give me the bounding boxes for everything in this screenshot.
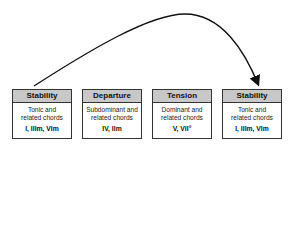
departure-box: Departure Subdominant and related chords… — [82, 89, 142, 139]
box-title: Tension — [153, 90, 211, 103]
box-title: Stability — [13, 90, 71, 103]
stability-box-start: Stability Tonic and related chords I, II… — [12, 89, 72, 139]
box-chords: I, IIIm, VIm — [13, 125, 71, 132]
box-description: Tonic and related chords — [223, 106, 281, 122]
box-description: Dominant and related chords — [153, 106, 211, 122]
box-chords: V, VII° — [153, 125, 211, 132]
box-chords: IV, IIm — [83, 125, 141, 132]
stability-box-end: Stability Tonic and related chords I, II… — [222, 89, 282, 139]
box-description: Subdominant and related chords — [83, 106, 141, 122]
tension-box: Tension Dominant and related chords V, V… — [152, 89, 212, 139]
box-title: Departure — [83, 90, 141, 103]
box-description: Tonic and related chords — [13, 106, 71, 122]
box-title: Stability — [223, 90, 281, 103]
box-chords: I, IIIm, VIm — [223, 125, 281, 132]
